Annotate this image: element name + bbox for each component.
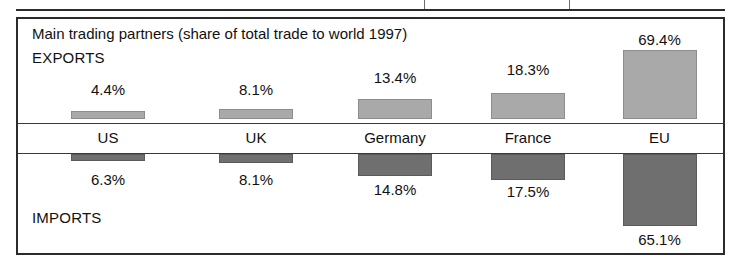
import-bar — [358, 154, 432, 176]
import-bar — [491, 154, 565, 180]
import-value-label: 8.1% — [184, 171, 328, 189]
trade-partners-chart: Main trading partners (share of total tr… — [16, 17, 725, 255]
chart-column-france: 18.3%France17.5% — [462, 19, 594, 253]
country-label: UK — [184, 128, 328, 148]
export-value-label: 69.4% — [594, 31, 725, 49]
chart-column-uk: 8.1%UK8.1% — [184, 19, 328, 253]
export-value-label: 13.4% — [328, 69, 462, 87]
chart-plot-area: Main trading partners (share of total tr… — [18, 19, 723, 253]
country-label: US — [32, 128, 184, 148]
import-value-label: 6.3% — [32, 171, 184, 189]
export-value-label: 8.1% — [184, 81, 328, 99]
export-value-label: 4.4% — [32, 81, 184, 99]
country-label: EU — [594, 128, 725, 148]
import-value-label: 65.1% — [594, 231, 725, 249]
import-bar — [219, 154, 293, 163]
chart-column-germany: 13.4%Germany14.8% — [328, 19, 462, 253]
country-label: Germany — [328, 128, 462, 148]
import-value-label: 17.5% — [462, 183, 594, 201]
export-value-label: 18.3% — [462, 61, 594, 79]
export-bar — [491, 93, 565, 119]
country-label: France — [462, 128, 594, 148]
chart-column-us: 4.4%US6.3% — [32, 19, 184, 253]
import-bar — [623, 154, 697, 226]
export-bar — [358, 99, 432, 119]
previous-table-divider-1 — [424, 0, 425, 9]
export-bar — [623, 50, 697, 119]
export-bar — [71, 111, 145, 119]
chart-column-eu: 69.4%EU65.1% — [594, 19, 725, 253]
import-value-label: 14.8% — [328, 181, 462, 199]
export-bar — [219, 109, 293, 119]
previous-table-remnant — [16, 0, 725, 11]
previous-table-divider-2 — [569, 0, 570, 9]
import-bar — [71, 154, 145, 161]
